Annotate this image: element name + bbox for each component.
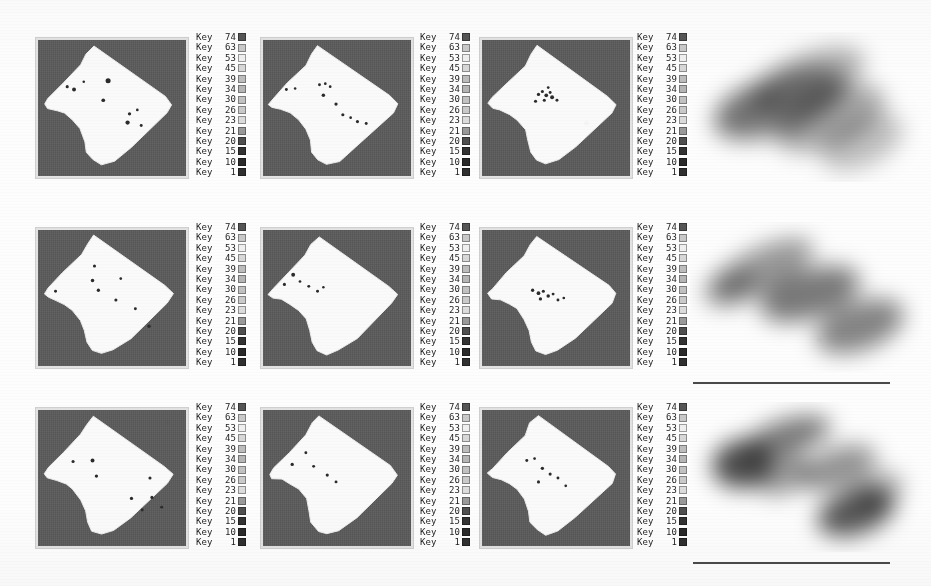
legend-row[interactable]: Key26 xyxy=(196,295,246,305)
legend-row[interactable]: Key21 xyxy=(420,316,470,326)
legend-row[interactable]: Key39 xyxy=(637,74,687,84)
legend-row[interactable]: Key21 xyxy=(196,126,246,136)
legend-row[interactable]: Key21 xyxy=(196,496,246,506)
legend-row[interactable]: Key23 xyxy=(637,115,687,125)
segmentation-panel-r1c1[interactable] xyxy=(36,38,188,178)
legend-row[interactable]: Key63 xyxy=(196,232,246,242)
legend-row[interactable]: Key74 xyxy=(196,32,246,42)
legend-row[interactable]: Key74 xyxy=(196,222,246,232)
legend-row[interactable]: Key20 xyxy=(196,326,246,336)
legend-row[interactable]: Key26 xyxy=(420,105,470,115)
legend-row[interactable]: Key1 xyxy=(420,537,470,547)
legend-row[interactable]: Key74 xyxy=(637,222,687,232)
legend-row[interactable]: Key53 xyxy=(637,243,687,253)
legend-row[interactable]: Key53 xyxy=(420,423,470,433)
legend-row[interactable]: Key30 xyxy=(196,94,246,104)
legend-row[interactable]: Key45 xyxy=(196,433,246,443)
legend-row[interactable]: Key34 xyxy=(196,84,246,94)
legend-row[interactable]: Key45 xyxy=(637,63,687,73)
segmentation-panel-r2c3[interactable] xyxy=(480,228,632,368)
legend-row[interactable]: Key1 xyxy=(637,537,687,547)
legend-row[interactable]: Key39 xyxy=(420,74,470,84)
legend-row[interactable]: Key39 xyxy=(420,444,470,454)
legend-row[interactable]: Key15 xyxy=(420,146,470,156)
legend-row[interactable]: Key20 xyxy=(420,326,470,336)
segmentation-panel-r1c2[interactable] xyxy=(261,38,413,178)
legend-row[interactable]: Key23 xyxy=(420,115,470,125)
legend-row[interactable]: Key39 xyxy=(196,264,246,274)
legend-row[interactable]: Key74 xyxy=(637,32,687,42)
legend-row[interactable]: Key45 xyxy=(196,253,246,263)
legend-row[interactable]: Key74 xyxy=(196,402,246,412)
segmentation-panel-r1c3[interactable] xyxy=(480,38,632,178)
legend-row[interactable]: Key45 xyxy=(420,253,470,263)
legend-row[interactable]: Key45 xyxy=(637,433,687,443)
legend-row[interactable]: Key45 xyxy=(196,63,246,73)
legend-row[interactable]: Key26 xyxy=(637,295,687,305)
legend-row[interactable]: Key45 xyxy=(637,253,687,263)
legend-row[interactable]: Key10 xyxy=(420,527,470,537)
legend-row[interactable]: Key20 xyxy=(196,506,246,516)
legend-row[interactable]: Key45 xyxy=(420,433,470,443)
legend-row[interactable]: Key34 xyxy=(637,454,687,464)
legend-row[interactable]: Key15 xyxy=(420,516,470,526)
legend-row[interactable]: Key10 xyxy=(637,157,687,167)
legend-row[interactable]: Key63 xyxy=(637,232,687,242)
legend-row[interactable]: Key15 xyxy=(637,516,687,526)
legend-row[interactable]: Key30 xyxy=(196,464,246,474)
legend-row[interactable]: Key63 xyxy=(637,42,687,52)
legend-row[interactable]: Key20 xyxy=(637,326,687,336)
legend-row[interactable]: Key63 xyxy=(420,232,470,242)
legend-row[interactable]: Key10 xyxy=(420,157,470,167)
legend-row[interactable]: Key1 xyxy=(420,357,470,367)
legend-row[interactable]: Key34 xyxy=(196,274,246,284)
legend-row[interactable]: Key10 xyxy=(420,347,470,357)
legend-row[interactable]: Key26 xyxy=(637,105,687,115)
legend-row[interactable]: Key1 xyxy=(196,537,246,547)
legend-row[interactable]: Key23 xyxy=(196,115,246,125)
legend-row[interactable]: Key1 xyxy=(196,167,246,177)
legend-row[interactable]: Key39 xyxy=(196,444,246,454)
legend-row[interactable]: Key21 xyxy=(637,316,687,326)
legend-row[interactable]: Key1 xyxy=(637,357,687,367)
density-map-row3[interactable] xyxy=(690,402,923,552)
legend-row[interactable]: Key21 xyxy=(637,126,687,136)
legend-row[interactable]: Key34 xyxy=(420,454,470,464)
legend-row[interactable]: Key21 xyxy=(196,316,246,326)
legend-row[interactable]: Key74 xyxy=(420,222,470,232)
legend-row[interactable]: Key20 xyxy=(420,136,470,146)
legend-row[interactable]: Key20 xyxy=(637,506,687,516)
segmentation-panel-r3c1[interactable] xyxy=(36,408,188,548)
legend-row[interactable]: Key63 xyxy=(420,42,470,52)
legend-row[interactable]: Key21 xyxy=(637,496,687,506)
legend-row[interactable]: Key30 xyxy=(637,284,687,294)
legend-row[interactable]: Key30 xyxy=(196,284,246,294)
legend-row[interactable]: Key63 xyxy=(420,412,470,422)
legend-row[interactable]: Key15 xyxy=(420,336,470,346)
legend-row[interactable]: Key53 xyxy=(420,53,470,63)
legend-row[interactable]: Key74 xyxy=(420,402,470,412)
legend-row[interactable]: Key23 xyxy=(420,305,470,315)
legend-row[interactable]: Key20 xyxy=(637,136,687,146)
legend-row[interactable]: Key30 xyxy=(637,464,687,474)
legend-row[interactable]: Key23 xyxy=(637,305,687,315)
legend-row[interactable]: Key30 xyxy=(420,464,470,474)
legend-row[interactable]: Key53 xyxy=(196,423,246,433)
legend-row[interactable]: Key15 xyxy=(196,516,246,526)
density-map-row2[interactable] xyxy=(690,222,923,372)
legend-row[interactable]: Key26 xyxy=(637,475,687,485)
legend-row[interactable]: Key53 xyxy=(637,423,687,433)
legend-row[interactable]: Key1 xyxy=(196,357,246,367)
legend-row[interactable]: Key1 xyxy=(420,167,470,177)
legend-row[interactable]: Key10 xyxy=(637,347,687,357)
legend-row[interactable]: Key30 xyxy=(420,94,470,104)
legend-row[interactable]: Key21 xyxy=(420,496,470,506)
legend-row[interactable]: Key15 xyxy=(637,336,687,346)
legend-row[interactable]: Key23 xyxy=(196,305,246,315)
legend-row[interactable]: Key20 xyxy=(196,136,246,146)
legend-row[interactable]: Key26 xyxy=(196,475,246,485)
legend-row[interactable]: Key63 xyxy=(196,412,246,422)
legend-row[interactable]: Key23 xyxy=(420,485,470,495)
legend-row[interactable]: Key10 xyxy=(196,347,246,357)
legend-row[interactable]: Key23 xyxy=(637,485,687,495)
